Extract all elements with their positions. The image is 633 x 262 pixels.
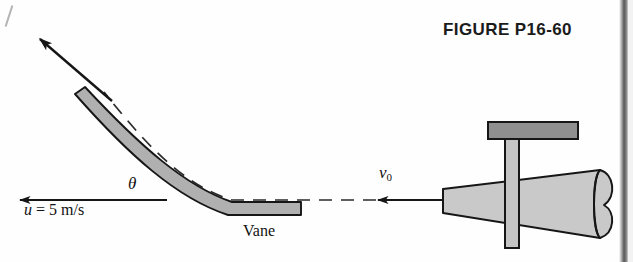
vane-shape (75, 87, 301, 215)
nozzle-body (443, 170, 600, 238)
label-vane-velocity: u = 5 m/s (24, 201, 84, 219)
figure-title: FIGURE P16-60 (443, 20, 572, 40)
label-u-symbol: u (24, 201, 32, 218)
label-angle-theta: θ (128, 174, 136, 194)
nozzle-assembly (443, 122, 612, 248)
dashed-jet-streamline (104, 92, 442, 200)
deflected-arrow-line (40, 39, 112, 101)
label-v-symbol: v (379, 163, 387, 182)
label-u-value: = 5 m/s (36, 201, 84, 218)
deflected-jet-arrow (40, 39, 112, 101)
support-post (505, 138, 519, 248)
label-v-subscript: 0 (387, 171, 393, 183)
vane-body (75, 87, 301, 215)
label-inlet-velocity: v0 (379, 163, 392, 183)
figure-container: FIGURE P16-60 v0 θ u = 5 m/s Vane (0, 0, 633, 262)
page-edge-shadow (619, 0, 628, 262)
dashed-path (104, 92, 442, 200)
mounting-plate (488, 122, 578, 139)
page-edge-margin (628, 0, 633, 262)
label-vane: Vane (243, 222, 275, 240)
